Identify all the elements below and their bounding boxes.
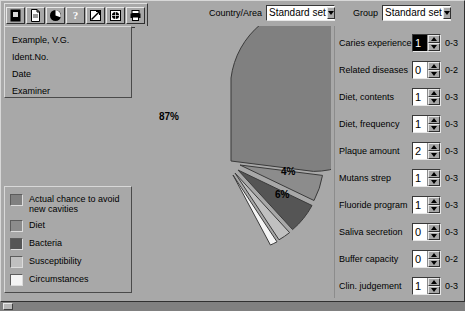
stepper-down-icon[interactable] bbox=[428, 97, 440, 105]
parameter-value[interactable]: 1 bbox=[413, 116, 427, 132]
stepper-down-icon[interactable] bbox=[428, 259, 440, 267]
pie-chart-area: 87% 4% 6% bbox=[135, 26, 331, 298]
parameter-row-buffer-capacity: Buffer capacity 0 0-2 bbox=[335, 245, 463, 272]
chevron-down-icon[interactable] bbox=[327, 7, 335, 19]
legend-item: Bacteria bbox=[10, 238, 127, 250]
group-value: Standard set bbox=[385, 7, 442, 19]
parameter-range: 0-2 bbox=[445, 65, 458, 75]
parameter-value[interactable]: 0 bbox=[413, 224, 427, 240]
country-area-value: Standard set bbox=[269, 7, 326, 19]
edit-chart-icon[interactable] bbox=[86, 7, 105, 24]
related-diseases-stepper[interactable]: 0 bbox=[412, 61, 441, 79]
parameter-range: 0-3 bbox=[445, 38, 458, 48]
patient-date[interactable]: Date bbox=[12, 66, 131, 83]
group-dropdown[interactable]: Standard set bbox=[382, 5, 451, 21]
patient-name[interactable]: Example, V.G. bbox=[12, 32, 131, 49]
stepper-buttons bbox=[427, 89, 440, 105]
parameter-label: Diet, contents bbox=[339, 92, 412, 102]
legend-label: Actual chance to avoid new cavities bbox=[29, 194, 127, 214]
buffer-capacity-stepper[interactable]: 0 bbox=[412, 250, 441, 268]
legend-swatch bbox=[10, 238, 23, 250]
application-window: ? Country/Area bbox=[0, 0, 465, 302]
parameter-value[interactable]: 1 bbox=[413, 197, 427, 213]
stepper-up-icon[interactable] bbox=[428, 197, 440, 205]
stepper-buttons bbox=[427, 197, 440, 213]
stepper-up-icon[interactable] bbox=[428, 89, 440, 97]
patient-ident-no[interactable]: Ident.No. bbox=[12, 49, 131, 66]
parameter-range: 0-3 bbox=[445, 92, 458, 102]
stepper-up-icon[interactable] bbox=[428, 143, 440, 151]
stepper-up-icon[interactable] bbox=[428, 278, 440, 286]
legend-item: Susceptibility bbox=[10, 256, 127, 268]
parameter-value[interactable]: 0 bbox=[413, 251, 427, 267]
stepper-down-icon[interactable] bbox=[428, 43, 440, 51]
stepper-down-icon[interactable] bbox=[428, 124, 440, 132]
diet-frequency-stepper[interactable]: 1 bbox=[412, 115, 441, 133]
parameter-label: Plaque amount bbox=[339, 146, 412, 156]
legend-item: Circumstances bbox=[10, 274, 127, 286]
stepper-buttons bbox=[427, 116, 440, 132]
stepper-down-icon[interactable] bbox=[428, 286, 440, 294]
new-document-icon[interactable] bbox=[26, 7, 45, 24]
parameter-value[interactable]: 1 bbox=[413, 170, 427, 186]
country-area-label: Country/Area bbox=[209, 8, 262, 18]
stepper-down-icon[interactable] bbox=[428, 151, 440, 159]
parameter-range: 0-3 bbox=[445, 227, 458, 237]
country-area-dropdown[interactable]: Standard set bbox=[266, 5, 335, 21]
parameter-range: 0-3 bbox=[445, 200, 458, 210]
plaque-amount-stepper[interactable]: 2 bbox=[412, 142, 441, 160]
group-label: Group bbox=[353, 8, 378, 18]
parameter-value[interactable]: 1 bbox=[413, 89, 427, 105]
stepper-up-icon[interactable] bbox=[428, 116, 440, 124]
patient-examiner[interactable]: Examiner bbox=[12, 83, 131, 100]
parameter-range: 0-2 bbox=[445, 254, 458, 264]
legend-swatch bbox=[10, 194, 23, 206]
parameter-range: 0-3 bbox=[445, 173, 458, 183]
stepper-up-icon[interactable] bbox=[428, 170, 440, 178]
print-icon[interactable] bbox=[126, 7, 145, 24]
parameter-label: Fluoride program bbox=[339, 200, 412, 210]
clin-judgement-stepper[interactable]: 1 bbox=[412, 277, 441, 295]
parameter-row-diet-contents: Diet, contents 1 0-3 bbox=[335, 83, 463, 110]
stepper-down-icon[interactable] bbox=[428, 178, 440, 186]
mutans-strep-stepper[interactable]: 1 bbox=[412, 169, 441, 187]
parameters-panel: Caries experience 1 0-3 Related diseases… bbox=[334, 26, 463, 298]
parameter-value[interactable]: 0 bbox=[413, 62, 427, 78]
parameter-value[interactable]: 1 bbox=[413, 35, 427, 51]
parameter-label: Saliva secretion bbox=[339, 227, 412, 237]
stepper-up-icon[interactable] bbox=[428, 224, 440, 232]
parameter-row-fluoride-program: Fluoride program 1 0-3 bbox=[335, 191, 463, 218]
parameter-value[interactable]: 2 bbox=[413, 143, 427, 159]
chevron-down-icon[interactable] bbox=[443, 7, 451, 19]
toolbar: ? bbox=[4, 3, 148, 28]
desktop-background bbox=[0, 302, 465, 311]
stepper-up-icon[interactable] bbox=[428, 62, 440, 70]
stepper-down-icon[interactable] bbox=[428, 205, 440, 213]
patient-info-panel: Example, V.G. Ident.No. Date Examiner bbox=[4, 26, 132, 98]
pie-chart-icon[interactable] bbox=[46, 7, 65, 24]
stepper-buttons bbox=[427, 143, 440, 159]
taskbar-button[interactable] bbox=[3, 303, 13, 310]
stepper-down-icon[interactable] bbox=[428, 70, 440, 78]
fluoride-program-stepper[interactable]: 1 bbox=[412, 196, 441, 214]
pie-chart[interactable] bbox=[135, 26, 331, 298]
diet-contents-stepper[interactable]: 1 bbox=[412, 88, 441, 106]
pie-slice-actual-chance[interactable] bbox=[231, 26, 331, 171]
parameter-value[interactable]: 1 bbox=[413, 278, 427, 294]
parameter-range: 0-3 bbox=[445, 119, 458, 129]
parameter-row-saliva-secretion: Saliva secretion 0 0-3 bbox=[335, 218, 463, 245]
stepper-down-icon[interactable] bbox=[428, 232, 440, 240]
help-icon[interactable]: ? bbox=[66, 7, 85, 24]
parameter-label: Buffer capacity bbox=[339, 254, 412, 264]
stepper-buttons bbox=[427, 224, 440, 240]
save-icon[interactable] bbox=[6, 7, 25, 24]
saliva-secretion-stepper[interactable]: 0 bbox=[412, 223, 441, 241]
parameter-range: 0-3 bbox=[445, 146, 458, 156]
parameter-row-plaque-amount: Plaque amount 2 0-3 bbox=[335, 137, 463, 164]
legend-swatch bbox=[10, 274, 23, 286]
globe-icon[interactable] bbox=[106, 7, 125, 24]
stepper-up-icon[interactable] bbox=[428, 35, 440, 43]
caries-experience-stepper[interactable]: 1 bbox=[412, 34, 441, 52]
stepper-up-icon[interactable] bbox=[428, 251, 440, 259]
parameter-label: Mutans strep bbox=[339, 173, 412, 183]
